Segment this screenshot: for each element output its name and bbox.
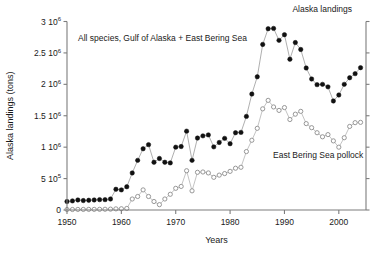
data-point	[76, 207, 80, 211]
data-point	[288, 117, 292, 121]
data-point	[288, 57, 292, 61]
data-point	[223, 171, 227, 175]
data-point	[320, 135, 324, 139]
data-point	[326, 133, 330, 137]
data-point	[152, 199, 156, 203]
data-point	[168, 161, 172, 165]
data-point	[342, 82, 346, 86]
data-point	[271, 26, 275, 30]
data-point	[228, 169, 232, 173]
data-point	[228, 142, 232, 146]
data-point	[130, 171, 134, 175]
data-point	[310, 126, 314, 130]
data-point	[244, 114, 248, 118]
data-point	[163, 160, 167, 164]
data-point	[174, 186, 178, 190]
data-point	[320, 82, 324, 86]
data-point	[108, 207, 112, 211]
data-point	[157, 156, 161, 160]
data-point	[195, 136, 199, 140]
data-point	[185, 169, 189, 173]
data-point	[217, 140, 221, 144]
data-point	[326, 85, 330, 89]
data-point	[157, 203, 161, 207]
data-point	[136, 194, 140, 198]
data-point	[87, 198, 91, 202]
data-point	[304, 66, 308, 70]
x-tick-label: 1960	[112, 217, 131, 227]
data-point	[103, 207, 107, 211]
data-point	[239, 130, 243, 134]
x-tick-label: 1950	[58, 217, 77, 227]
data-point	[81, 198, 85, 202]
x-tick-label: 2000	[329, 217, 348, 227]
data-point	[201, 170, 205, 174]
data-point	[168, 192, 172, 196]
data-point	[212, 175, 216, 179]
x-axis-label: Years	[205, 235, 228, 245]
x-tick-label: 1990	[275, 217, 294, 227]
data-point	[244, 149, 248, 153]
data-point	[190, 189, 194, 193]
data-point	[250, 92, 254, 96]
data-point	[293, 40, 297, 44]
data-point	[206, 171, 210, 175]
data-point	[239, 165, 243, 169]
y-tick-label: 5 105	[41, 173, 62, 183]
y-tick-label: 1.5 106	[34, 111, 62, 121]
data-point	[233, 166, 237, 170]
data-point	[190, 158, 194, 162]
data-point	[114, 187, 118, 191]
data-point	[92, 198, 96, 202]
data-point	[233, 131, 237, 135]
data-point	[103, 197, 107, 201]
data-point	[261, 107, 265, 111]
data-point	[222, 136, 226, 140]
data-point	[163, 197, 167, 201]
data-point	[97, 197, 101, 201]
data-point	[179, 144, 183, 148]
data-point	[282, 105, 286, 109]
data-point	[152, 160, 156, 164]
data-point	[331, 139, 335, 143]
data-point	[76, 198, 80, 202]
data-point	[348, 124, 352, 128]
data-point	[299, 109, 303, 113]
data-point	[141, 147, 145, 151]
data-point	[179, 184, 183, 188]
data-point	[353, 121, 357, 125]
data-point	[255, 126, 259, 130]
data-point	[277, 108, 281, 112]
data-point	[358, 120, 362, 124]
data-point	[195, 170, 199, 174]
data-point	[119, 188, 123, 192]
data-point	[261, 42, 265, 46]
series-b-annotation: East Bering Sea pollock	[273, 150, 364, 160]
data-point	[184, 129, 188, 133]
data-point	[266, 27, 270, 31]
y-tick-label: 2.5 106	[34, 48, 62, 58]
data-point	[299, 47, 303, 51]
data-point	[353, 71, 357, 75]
data-point	[146, 142, 150, 146]
data-point	[98, 207, 102, 211]
y-tick-label: 3 106	[41, 16, 62, 26]
data-point	[358, 65, 362, 69]
x-tick-label: 1970	[166, 217, 185, 227]
data-point	[87, 207, 91, 211]
data-point	[337, 145, 341, 149]
data-point	[282, 32, 286, 36]
y-tick-label: 1 106	[41, 142, 62, 152]
data-point	[309, 77, 313, 81]
data-point	[135, 158, 139, 162]
data-point	[255, 75, 259, 79]
chart-title: Alaska landings	[292, 4, 352, 14]
series-a-annotation: All species, Gulf of Alaska + East Berin…	[78, 33, 247, 43]
data-point	[92, 207, 96, 211]
data-point	[174, 145, 178, 149]
data-point	[266, 98, 270, 102]
data-point	[315, 82, 319, 86]
data-point	[342, 136, 346, 140]
data-point	[337, 93, 341, 97]
data-point	[70, 199, 74, 203]
